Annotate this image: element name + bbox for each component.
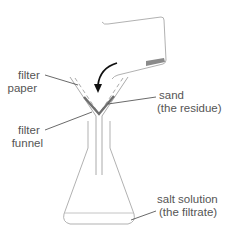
pour-direction-arrow-icon <box>94 63 117 93</box>
pouring-beaker <box>102 17 166 79</box>
label-sand-residue: sand (the residue) <box>157 89 222 114</box>
filter-funnel <box>70 77 128 175</box>
label-filter-funnel: filter funnel <box>12 124 43 149</box>
conical-flask <box>64 121 135 224</box>
leader-lines <box>45 75 156 220</box>
label-salt-solution-filtrate: salt solution (the filtrate) <box>157 193 221 218</box>
label-filter-paper: filter paper <box>8 69 43 94</box>
filtration-diagram: filter paper filter funnel sand (the res… <box>0 0 233 237</box>
